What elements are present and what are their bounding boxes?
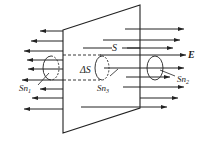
right-field-lines bbox=[81, 29, 186, 107]
normal-3-label: Sn3 bbox=[97, 83, 109, 94]
normal-1-label: Sn1 bbox=[19, 83, 31, 94]
surface-label: S bbox=[112, 42, 117, 53]
charged-plane bbox=[63, 5, 140, 133]
normal-2-label: Sn2 bbox=[177, 74, 189, 85]
gauss-law-diagram: S E ΔS Sn1 Sn2 Sn3 bbox=[0, 0, 205, 146]
field-label: E bbox=[187, 49, 195, 60]
area-element-label: ΔS bbox=[79, 64, 91, 75]
left-field-lines bbox=[22, 31, 63, 109]
